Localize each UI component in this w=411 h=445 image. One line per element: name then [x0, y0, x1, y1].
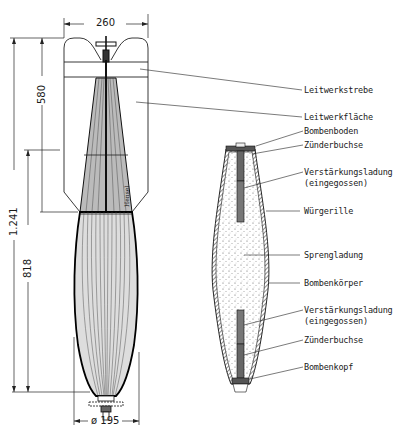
label-eingegossen-top: (eingegossen) — [304, 178, 368, 188]
dim-overall-length: 1.241 — [8, 207, 19, 236]
body-marking: Hensel — [123, 186, 130, 207]
label-verstaerkungsladung-top: Verstärkungsladung — [304, 167, 393, 177]
cross-section — [136, 69, 303, 392]
label-zuenderbuchse-bottom: Zünderbuchse — [304, 335, 363, 345]
label-bombenkopf: Bombenkopf — [304, 362, 353, 372]
label-bombenboden: Bombenboden — [304, 126, 358, 136]
label-verstaerkungsladung-bottom: Verstärkungsladung — [304, 305, 393, 315]
label-wuergerille: Würgerille — [304, 206, 353, 216]
label-leitwerkstrebe: Leitwerkstrebe — [304, 85, 373, 95]
label-bombenkoerper: Bombenkörper — [304, 278, 363, 288]
tail-propeller — [96, 36, 116, 62]
label-eingegossen-bottom: (eingegossen) — [304, 316, 368, 326]
label-zuenderbuchse-top: Zünderbuchse — [304, 140, 363, 150]
dim-tail-width: 260 — [96, 17, 115, 28]
dim-tail-length: 580 — [36, 85, 47, 104]
label-sprengladung: Sprengladung — [304, 250, 363, 260]
label-leitwerkflaeche: Leitwerkfläche — [304, 112, 373, 122]
bomb-body — [74, 212, 137, 396]
dim-body-length: 818 — [22, 259, 33, 278]
bomb-diagram: Hensel — [0, 0, 411, 445]
dim-diameter: ø 195 — [91, 415, 119, 426]
exterior-view: Hensel — [10, 14, 148, 425]
